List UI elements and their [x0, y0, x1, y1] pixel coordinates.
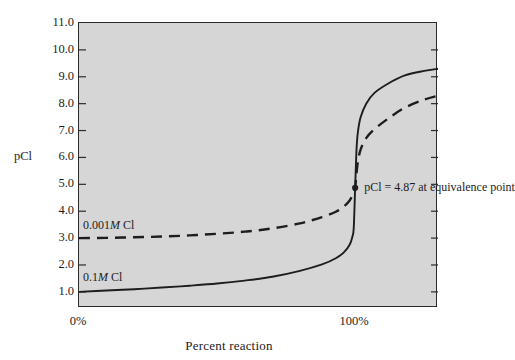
y-tick-label: 11.0 [40, 16, 74, 28]
y-tick-label: 1.0 [40, 285, 74, 297]
molarity-symbol: M [98, 270, 108, 284]
y-tick-label: 7.0 [40, 124, 74, 136]
equivalence-point-annotation: pCl = 4.87 at equivalence point [364, 180, 515, 195]
y-tick-label: 2.0 [40, 258, 74, 270]
y-axis-tick-labels: 11.010.09.08.07.06.05.04.03.02.01.0 [34, 0, 74, 360]
x-tick-label: 100% [340, 314, 369, 329]
molarity-symbol: M [110, 218, 120, 232]
x-axis-title: Percent reaction [0, 338, 458, 354]
series-label-0001M: 0.001M Cl [83, 218, 134, 233]
series-curve-1 [79, 96, 438, 239]
equivalence-point-marker [352, 185, 358, 191]
y-tick-label: 8.0 [40, 97, 74, 109]
plot-canvas [79, 23, 438, 308]
y-tick-label: 9.0 [40, 70, 74, 82]
y-tick-label: 5.0 [40, 177, 74, 189]
series-label-01M: 0.1M Cl [83, 270, 122, 285]
data-point-markers [352, 185, 358, 191]
y-tick-label: 10.0 [40, 43, 74, 55]
y-tick-label: 3.0 [40, 231, 74, 243]
y-tick-label: 4.0 [40, 204, 74, 216]
y-tick-label: 6.0 [40, 150, 74, 162]
x-tick-label: 0% [70, 314, 87, 329]
plot-area: 0.001M Cl 0.1M Cl pCl = 4.87 at equivale… [78, 22, 437, 307]
